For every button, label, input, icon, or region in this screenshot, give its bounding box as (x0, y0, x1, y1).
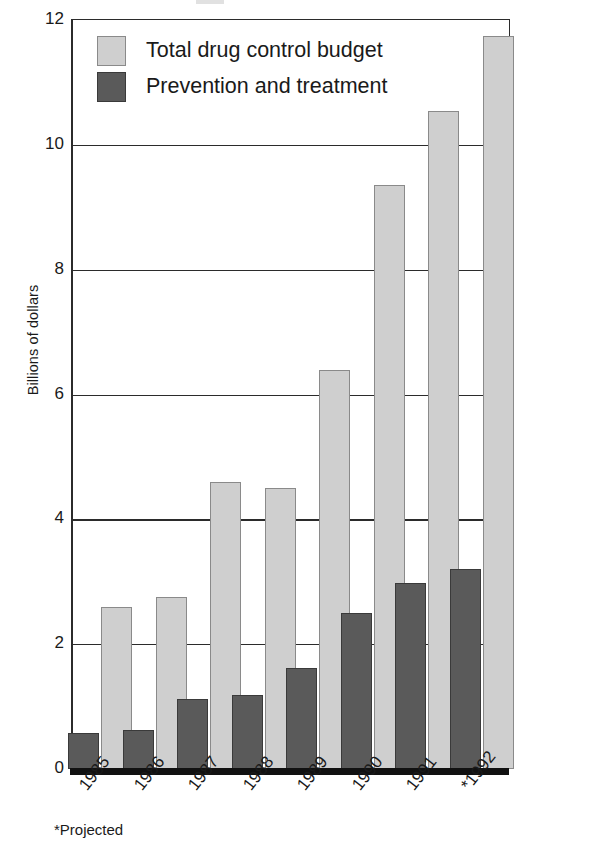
bar-chart-figure: Billions of dollars 024681012 Total drug… (0, 0, 615, 841)
x-axis-tick-1990: 1990 (349, 753, 386, 793)
x-axis-tick-1985: 1985 (76, 753, 113, 793)
x-axis-tick-1988: 1988 (240, 753, 277, 793)
x-axis-tick-1989: 1989 (294, 753, 331, 793)
x-axis-tick-1986: 1986 (131, 753, 168, 793)
x-axis-tick-1992: *1992 (458, 748, 499, 793)
x-axis-tick-1991: 1991 (403, 753, 440, 793)
x-axis-tick-labels: 1985198619871988198919901991*1992 (0, 0, 615, 841)
x-axis-tick-1987: 1987 (185, 753, 222, 793)
footnote: *Projected (54, 822, 123, 837)
